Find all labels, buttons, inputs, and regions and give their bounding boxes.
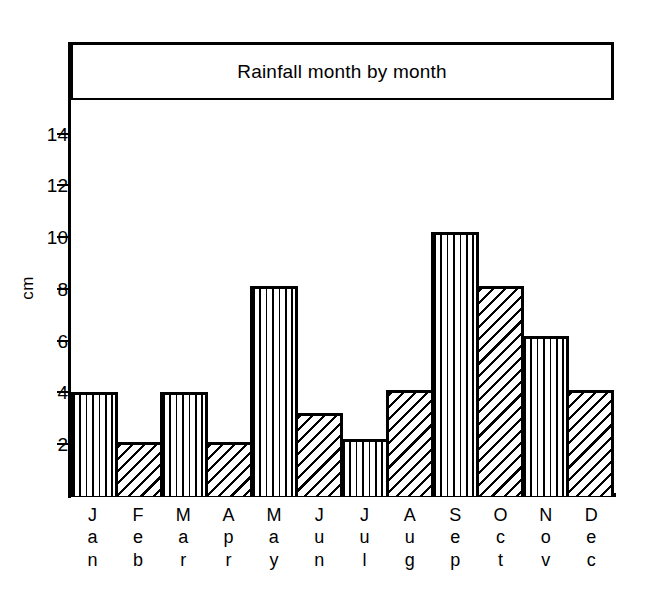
x-axis-tick-label-char: b	[115, 549, 160, 571]
plot-area	[70, 100, 614, 496]
x-axis-tick-label-char: t	[478, 549, 523, 571]
chart-title-box: Rainfall month by month	[70, 42, 614, 100]
x-axis-tick-label-char: u	[342, 526, 387, 548]
bar-may	[250, 286, 298, 496]
x-axis-tick-label-char: M	[161, 504, 206, 526]
x-axis-tick-label: Dec	[569, 504, 614, 571]
x-axis-tick-label-char: D	[569, 504, 614, 526]
y-axis-tick-mark	[57, 340, 70, 342]
x-axis-tick-label-char: v	[523, 549, 568, 571]
x-axis-tick-label-char: n	[70, 549, 115, 571]
x-axis-tick-label-char: u	[297, 526, 342, 548]
bar-sep	[431, 232, 479, 496]
x-axis-tick-label-char: p	[433, 549, 478, 571]
bar-jun	[295, 413, 343, 496]
x-axis-tick-label-char: J	[70, 504, 115, 526]
x-axis-tick-label-char: O	[478, 504, 523, 526]
x-axis-tick-label-char: a	[70, 526, 115, 548]
x-axis-tick-label-char: S	[433, 504, 478, 526]
bar-dec	[566, 390, 614, 496]
bar-aug	[386, 390, 434, 496]
bar-mar	[160, 392, 208, 496]
x-axis-tick-label: Sep	[433, 504, 478, 571]
x-axis-tick-label-char: y	[251, 549, 296, 571]
x-axis-tick-label-char: M	[251, 504, 296, 526]
x-axis-tick-label-char: p	[206, 526, 251, 548]
x-axis-tick-label-char: F	[115, 504, 160, 526]
x-axis-tick-label-char: l	[342, 549, 387, 571]
y-axis-tick-mark	[57, 288, 70, 290]
x-axis-tick-label: Jun	[297, 504, 342, 571]
x-axis-tick-label: Mar	[161, 504, 206, 571]
x-axis-tick-label-char: r	[161, 549, 206, 571]
y-axis-tick-labels: 2468101214	[22, 0, 68, 610]
rainfall-bar-chart: Rainfall month by month cm 2468101214 Ja…	[0, 0, 650, 610]
bar-series	[70, 100, 614, 496]
x-axis-tick-label-char: c	[569, 549, 614, 571]
bar-nov	[521, 336, 569, 496]
x-axis-tick-label: Aug	[387, 504, 432, 571]
x-axis-tick-label-char: g	[387, 549, 432, 571]
x-axis-tick-label-char: c	[478, 526, 523, 548]
y-axis-tick-mark	[57, 133, 70, 135]
x-axis-tick-label-char: o	[523, 526, 568, 548]
x-axis-tick-label-char: u	[387, 526, 432, 548]
y-axis-tick-mark	[57, 236, 70, 238]
bar-jan	[70, 392, 118, 496]
bar-jul	[340, 439, 388, 496]
x-axis-tick-label-char: a	[251, 526, 296, 548]
bar-oct	[476, 286, 524, 496]
x-axis-tick-label-char: J	[342, 504, 387, 526]
x-axis-tick-label: May	[251, 504, 296, 571]
y-axis-tick-mark	[57, 443, 70, 445]
x-axis-tick-labels: JanFebMarAprMayJunJulAugSepOctNovDec	[70, 504, 614, 571]
x-axis-tick-label-char: n	[297, 549, 342, 571]
x-axis-tick-label-char: J	[297, 504, 342, 526]
chart-title: Rainfall month by month	[237, 61, 446, 83]
x-axis-tick-label-char: A	[206, 504, 251, 526]
y-axis-tick-mark	[57, 391, 70, 393]
y-axis-tick-mark	[57, 184, 70, 186]
x-axis-tick-label: Feb	[115, 504, 160, 571]
x-axis-tick-label-char: e	[433, 526, 478, 548]
x-axis-tick-label: Nov	[523, 504, 568, 571]
bar-apr	[205, 442, 253, 496]
x-axis-tick-label: Apr	[206, 504, 251, 571]
x-axis-tick-label-char: a	[161, 526, 206, 548]
x-axis-tick-label: Oct	[478, 504, 523, 571]
x-axis-tick-label-char: r	[206, 549, 251, 571]
x-axis-tick-label-char: A	[387, 504, 432, 526]
x-axis-tick-label: Jan	[70, 504, 115, 571]
x-axis-tick-label-char: e	[569, 526, 614, 548]
x-axis-tick-label: Jul	[342, 504, 387, 571]
x-axis-tick-label-char: e	[115, 526, 160, 548]
bar-feb	[115, 442, 163, 496]
x-axis-tick-label-char: N	[523, 504, 568, 526]
